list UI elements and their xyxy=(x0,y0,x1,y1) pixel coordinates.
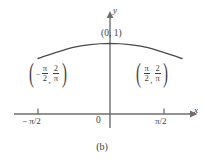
left-comma: , xyxy=(49,75,51,85)
x-tick-label-neg-half-pi: − π/2 xyxy=(22,117,41,126)
right-close-paren: ) xyxy=(163,63,168,84)
left-y-fraction: 2 π xyxy=(52,64,59,83)
left-close-paren: ) xyxy=(62,63,67,84)
x-tick-label-pos-half-pi: π/2 xyxy=(155,117,167,126)
left-open-paren: ( xyxy=(29,63,34,84)
right-open-paren: ( xyxy=(136,63,141,84)
right-x-denominator: 2 xyxy=(144,73,150,83)
vertex-point-label: (0, 1) xyxy=(101,29,122,39)
right-y-denominator: π xyxy=(155,73,161,83)
right-endpoint-coordinate-label: ( π 2 , 2 π ) xyxy=(134,63,170,84)
right-y-fraction: 2 π xyxy=(154,64,161,83)
right-x-numerator: π xyxy=(144,64,150,73)
x-axis-label: x xyxy=(194,106,198,115)
left-y-denominator: π xyxy=(53,73,59,83)
figure-caption: (b) xyxy=(0,142,204,152)
figure-container: y x (0, 1) − π/2 0 π/2 ( − π 2 , 2 π ) (… xyxy=(0,0,204,164)
right-y-numerator: 2 xyxy=(155,64,161,73)
left-x-numerator: π xyxy=(42,64,48,73)
right-comma: , xyxy=(150,75,152,85)
left-x-fraction: π 2 xyxy=(41,64,48,83)
y-axis-label: y xyxy=(113,6,117,15)
x-tick-label-origin: 0 xyxy=(96,116,101,126)
left-x-denominator: 2 xyxy=(42,73,48,83)
left-endpoint-coordinate-label: ( − π 2 , 2 π ) xyxy=(27,63,69,84)
left-y-numerator: 2 xyxy=(53,64,59,73)
left-negative-sign: − xyxy=(36,69,41,79)
right-x-fraction: π 2 xyxy=(143,64,150,83)
